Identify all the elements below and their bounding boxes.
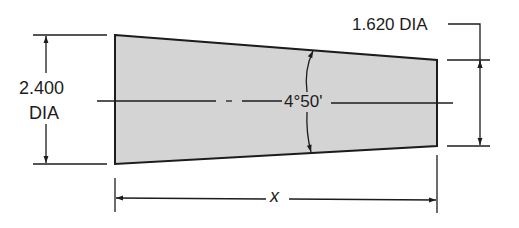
- large-diameter-value: 2.400: [19, 80, 64, 97]
- length-label: x: [270, 188, 279, 205]
- small-diameter-dimension: [447, 24, 490, 146]
- large-diameter-unit: DIA: [29, 105, 59, 122]
- taper-angle-label: 4°50': [284, 93, 322, 110]
- tapered-part-body: [115, 35, 437, 164]
- tapered-shaft-drawing: [0, 0, 519, 228]
- large-diameter-dimension: [33, 35, 107, 164]
- small-diameter-label: 1.620 DIA: [352, 16, 428, 33]
